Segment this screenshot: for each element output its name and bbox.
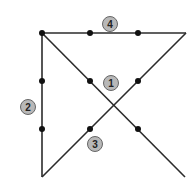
dot (39, 126, 45, 132)
dot (39, 78, 45, 84)
step-badges: 4123 (21, 17, 119, 152)
badge-step-3: 3 (88, 137, 103, 152)
nine-dots-diagram: 4123 (0, 0, 192, 180)
dot (39, 30, 45, 36)
badge-step-4: 4 (103, 17, 118, 32)
dot (87, 78, 93, 84)
badge-label: 4 (107, 19, 113, 30)
dot (135, 126, 141, 132)
badge-label: 3 (92, 139, 98, 150)
badge-step-2: 2 (21, 100, 36, 115)
dot (135, 30, 141, 36)
dot (87, 126, 93, 132)
badge-step-1: 1 (104, 76, 119, 91)
solution-lines (42, 33, 186, 177)
badge-label: 2 (25, 102, 31, 113)
badge-label: 1 (108, 78, 114, 89)
dot (87, 30, 93, 36)
dot (135, 78, 141, 84)
